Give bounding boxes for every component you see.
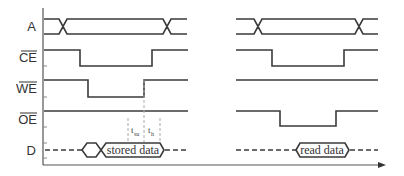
time-axis-arrow-icon — [378, 162, 386, 168]
signal-label-ce: CE — [19, 50, 37, 65]
write-a-bus — [44, 19, 187, 34]
read-data-label: read data — [300, 143, 344, 157]
signal-label-oe: OE — [18, 112, 37, 127]
write-d-invalid-segment — [82, 143, 101, 157]
read-a-bus — [236, 19, 378, 34]
timing-diagram: A CE WE OE D t su t h stored data — [0, 0, 404, 176]
write-ce-wave — [44, 50, 188, 66]
signal-label-we: WE — [16, 81, 37, 96]
signal-label-d: D — [27, 143, 36, 158]
tsu-subscript: su — [134, 131, 139, 137]
th-subscript: h — [151, 131, 154, 137]
read-cycle: read data — [236, 19, 378, 157]
stored-data-label: stored data — [107, 143, 160, 157]
read-ce-wave — [236, 50, 378, 66]
signal-label-a: A — [27, 19, 36, 34]
read-oe-wave — [236, 111, 378, 126]
write-we-wave — [44, 80, 188, 97]
write-cycle: t su t h stored data — [44, 19, 188, 157]
